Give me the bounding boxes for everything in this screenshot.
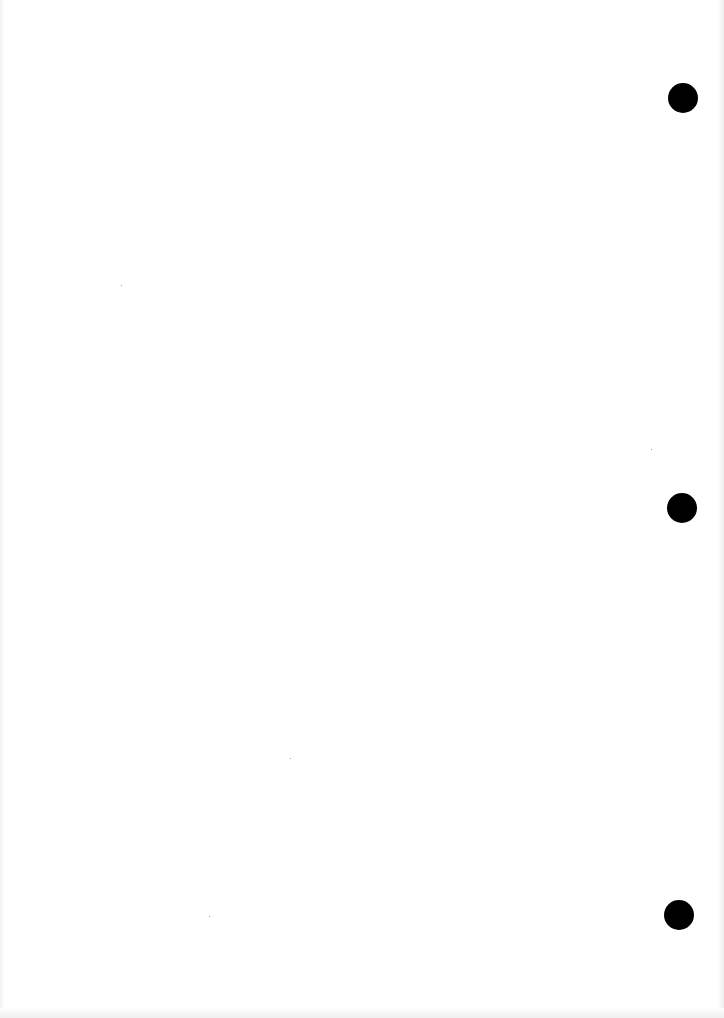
scan-edge-right <box>718 0 724 1018</box>
punch-hole-bottom <box>664 900 694 930</box>
punch-hole-top <box>668 83 698 113</box>
scan-shadow-bottom <box>0 1008 724 1018</box>
scan-speck <box>651 449 652 450</box>
scan-edge-left <box>0 0 4 1018</box>
punch-hole-middle <box>667 493 697 523</box>
scan-speck <box>121 285 122 286</box>
scan-speck <box>209 916 210 917</box>
scan-speck <box>290 758 291 759</box>
blank-scanned-page <box>0 0 724 1018</box>
